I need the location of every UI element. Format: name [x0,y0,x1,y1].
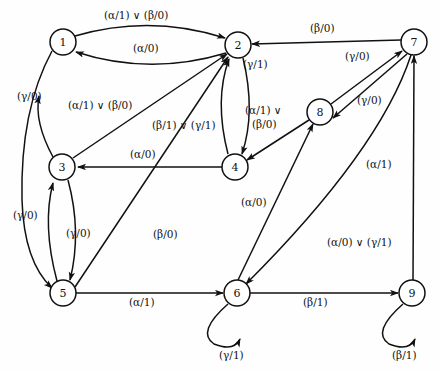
edge-label-6-to-9: (β/1) [303,296,327,308]
edge-label-9-to-7: (α/0) ∨ (γ/1) [327,236,392,248]
node-7-label: 7 [411,36,418,49]
node-1-label: 1 [60,36,67,49]
node-6[interactable]: 6 [224,280,250,306]
edge-5-to-3 [48,183,57,281]
node-3-label: 3 [59,161,66,174]
node-3[interactable]: 3 [49,154,75,180]
edge-3-to-1 [38,96,53,157]
edge-6-self-loop [208,304,240,347]
node-1[interactable]: 1 [50,29,76,55]
edge-7-to-8 [333,54,407,118]
state-diagram-svg: 1 2 3 4 5 6 7 8 [0,0,440,371]
node-6-label: 6 [234,287,241,300]
edge-label-3-to-5: (γ/0) [66,227,91,239]
edge-5-to-2 [75,57,228,287]
edge-label-7-to-8: (γ/0) [357,94,382,106]
edge-9-self-loop [383,304,415,347]
node-8-label: 8 [317,106,324,119]
node-4-label: 4 [232,161,239,174]
node-2[interactable]: 2 [225,32,251,58]
node-8[interactable]: 8 [307,99,333,125]
edge-label-2-to-1: (α/0) [133,42,159,54]
edge-label-5-to-2: (β/0) [153,228,177,240]
edge-1-to-2 [75,25,225,38]
edge-label-5-to-6: (α/1) [129,296,155,308]
edge-label-4-to-3: (α/0) [130,148,156,160]
node-5[interactable]: 5 [50,280,76,306]
edge-label-2-to-4: (γ/1) [243,58,268,70]
edge-label-3-to-1: (γ/0) [13,209,38,221]
diagram-canvas: 1 2 3 4 5 6 7 8 [0,0,440,371]
node-9[interactable]: 9 [399,280,425,306]
edge-label-6-to-8: (α/0) [241,196,267,208]
edge-9-to-7 [413,56,414,280]
edge-1-to-5 [22,51,52,288]
edge-label-4-to-2: (β/1) ∨ (γ/1) [152,119,216,131]
node-5-label: 5 [60,287,67,300]
edge-label-1-to-5: (γ/0) [17,90,42,102]
edge-label-8-to-4-b: (β/0) [252,118,276,130]
edge-7-to-2 [252,40,401,44]
edge-label-8-to-7: (γ/0) [345,50,370,62]
edge-label-6-self-loop: (γ/1) [219,349,244,361]
edge-label-3-to-2: (α/1) ∨ (β/0) [68,99,132,111]
node-9-label: 9 [409,287,416,300]
edge-label-7-to-6: (α/1) [366,158,392,170]
node-2-label: 2 [235,39,242,52]
edge-label-9-self-loop: (β/1) [392,349,416,361]
edge-label-7-to-2: (β/0) [310,22,334,34]
node-7[interactable]: 7 [401,29,427,55]
edge-4-to-2 [221,59,229,154]
node-4[interactable]: 4 [222,154,248,180]
edge-label-1-to-2: (α/1) ∨ (β/0) [104,9,168,21]
edge-label-8-to-4-a: (α/1) ∨ [245,104,282,116]
